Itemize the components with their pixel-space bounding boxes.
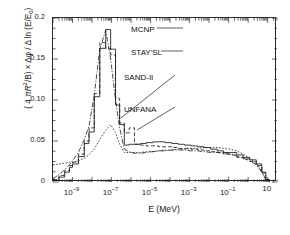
x-axis-title: E (MeV) bbox=[52, 204, 276, 214]
x-tick-label: 10−9 bbox=[64, 184, 80, 198]
x-tick-label: 10−3 bbox=[181, 184, 197, 198]
series-label-mcnp: MCNP bbox=[131, 25, 155, 34]
series-label-sand-ii: SAND-II bbox=[124, 73, 153, 82]
x-tick-label: 10−7 bbox=[103, 184, 119, 198]
x-tick-label: 10−1 bbox=[220, 184, 236, 198]
x-tick-label: 10 bbox=[262, 184, 271, 194]
plot-svg bbox=[53, 18, 277, 182]
series-label-unfana: UNFANA bbox=[124, 105, 156, 114]
y-axis-title: ( 4 πR2/B) × Δφ / Δ ln (E/E0) bbox=[22, 0, 34, 148]
x-tick-label: 10−5 bbox=[142, 184, 158, 198]
figure-neutron-spectrum: 00.050.100.150.2 ( 4 πR2/B) × Δφ / Δ ln … bbox=[0, 0, 290, 235]
plot-area bbox=[52, 17, 276, 181]
series-label-stay-sl: STAY'SL bbox=[131, 48, 162, 57]
series-stay-sl bbox=[53, 43, 269, 182]
x-axis-ticklabels: 10−910−710−510−310−110 bbox=[0, 184, 290, 198]
y-tick-label: 0.2 bbox=[34, 13, 45, 21]
